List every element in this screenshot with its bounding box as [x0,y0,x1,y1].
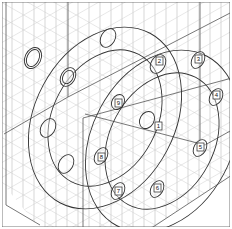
bolt-label-9: 9 [115,99,122,107]
bolt-label-3: 3 [195,55,202,63]
bolt-label-1: 1 [155,122,162,130]
bolt-label-5: 5 [197,143,204,151]
bolt-label-4: 4 [213,91,220,99]
bolt-label-8: 8 [98,153,105,161]
flange-diagram: 1 2 3 4 5 6 7 [0,0,232,229]
bolt-label-2: 2 [156,57,163,65]
bolt-label-6: 6 [154,184,161,192]
bolt-label-7: 7 [115,187,122,195]
diagram-svg: 1 2 3 4 5 6 7 [0,0,232,229]
